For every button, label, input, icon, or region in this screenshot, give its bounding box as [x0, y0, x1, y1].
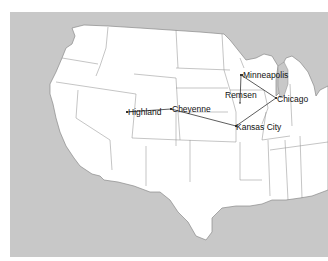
city-minneapolis[interactable]: Minneapolis [240, 70, 288, 80]
city-label-remsen: Remsen [225, 90, 257, 100]
city-kansas-city[interactable]: Kansas City [235, 122, 282, 132]
city-highland[interactable]: Highland [126, 107, 162, 117]
city-chicago[interactable]: Chicago [275, 94, 308, 104]
city-label-highland: Highland [128, 107, 162, 117]
city-cheyenne[interactable]: Cheyenne [170, 104, 211, 114]
city-marker [239, 102, 241, 104]
city-label-minneapolis: Minneapolis [243, 70, 288, 80]
city-label-cheyenne: Cheyenne [172, 104, 211, 114]
us-map: Minneapolis Remsen Chicago Highland Chey… [0, 0, 328, 261]
us-landmass [50, 25, 328, 240]
city-label-chicago: Chicago [277, 94, 308, 104]
city-label-kansas-city: Kansas City [236, 122, 282, 132]
